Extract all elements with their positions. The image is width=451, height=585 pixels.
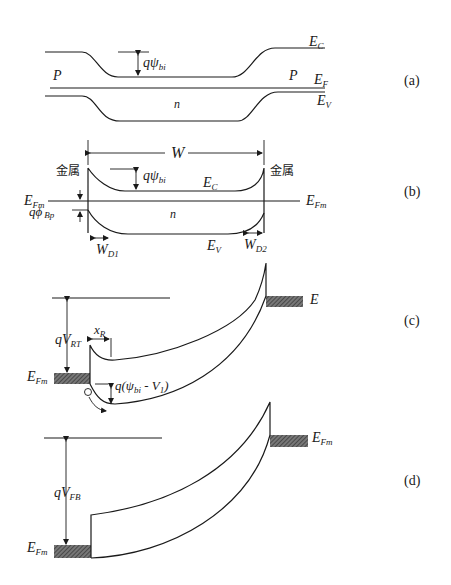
qpsi-bi-label: qψbi: [143, 55, 166, 72]
n-region-label: n: [170, 207, 176, 221]
efm-right-label: EFm: [311, 430, 333, 447]
conduction-band-edge: [91, 402, 270, 558]
efm-right-label: E: [309, 292, 319, 307]
metal-right-hatch: [270, 435, 308, 447]
metal-right-hatch: [266, 296, 303, 307]
qpsi-bi-label: qψbi: [143, 168, 166, 185]
ec-label: EC: [202, 175, 219, 192]
valence-band-edge: [88, 210, 264, 234]
n-region-label: n: [174, 97, 180, 111]
valence-band-edge: [91, 435, 270, 558]
metal-left-hatch: [54, 373, 90, 384]
panel-a: qψbi P P n EC EF EV (a): [45, 34, 420, 121]
panel-c: qVRT xR EFm E q(ψbi - V1) (c): [26, 263, 420, 411]
hole-injection-arrow: [89, 397, 106, 411]
efm-left-label: EFm: [26, 369, 48, 386]
ec-label: EC: [308, 34, 325, 51]
ev-label: EV: [206, 238, 223, 255]
wd2-label: WD2: [244, 237, 267, 254]
qvrt-label: qVRT: [55, 332, 82, 349]
panel-d: qVFB EFm EFm (d): [26, 402, 421, 558]
panel-b: W 金属 金属 qψbi EC EFm EFm qϕBp n EV WD1 WD…: [23, 140, 421, 259]
conduction-band-edge: [90, 263, 266, 384]
metal-left-label: 金属: [56, 163, 80, 178]
panel-label-c: (c): [404, 313, 420, 329]
w-label: W: [171, 144, 186, 161]
wd1-label: WD1: [96, 242, 119, 259]
band-diagram-figure: qψbi P P n EC EF EV (a) W 金属 金属 qψbi EC …: [0, 0, 451, 585]
qvfb-label: qVFB: [54, 485, 81, 502]
panel-label-a: (a): [404, 73, 420, 89]
xr-label: xR: [93, 322, 106, 339]
metal-left-hatch: [54, 545, 91, 558]
panel-label-b: (b): [404, 184, 421, 200]
conduction-band-edge: [45, 48, 325, 77]
valence-band-edge: [45, 92, 325, 121]
p-region-right-label: P: [288, 68, 298, 83]
ef-label: EF: [313, 72, 329, 89]
qphi-bp-label: qϕBp: [29, 204, 55, 220]
efm-left-label: EFm: [26, 540, 48, 557]
qpsi-v1-label: q(ψbi - V1): [115, 378, 169, 395]
efm-right-label: EFm: [305, 193, 327, 210]
panel-label-d: (d): [404, 473, 421, 489]
p-region-left-label: P: [52, 68, 62, 83]
hole-icon: [85, 389, 92, 396]
ev-label: EV: [316, 93, 333, 110]
metal-right-label: 金属: [270, 163, 294, 178]
